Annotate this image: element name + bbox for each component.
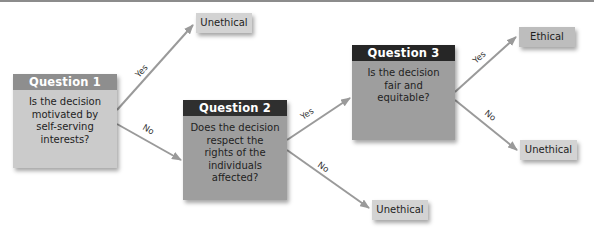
outcome-q1-yes-unethical: Unethical — [196, 13, 252, 33]
arrow-q3-yes — [455, 37, 516, 92]
arrow-q3-no — [455, 100, 517, 150]
question-1-line: Is the decision — [19, 96, 111, 109]
arrow-q2-yes — [287, 98, 350, 140]
question-2-text: Does the decision respect the rights of … — [183, 116, 287, 185]
question-2-line: rights of the — [189, 147, 281, 160]
question-1-title: Question 1 — [13, 74, 117, 90]
question-1-box: Question 1 Is the decision motivated by … — [13, 74, 117, 168]
question-3-line: Is the decision — [358, 67, 449, 80]
outcome-q3-yes-ethical: Ethical — [519, 27, 575, 47]
question-2-title: Question 2 — [183, 100, 287, 116]
question-2-line: Does the decision — [189, 122, 281, 135]
question-3-line: fair and equitable? — [358, 80, 449, 105]
question-2-box: Question 2 Does the decision respect the… — [183, 100, 287, 200]
arrow-q1-yes — [117, 25, 193, 110]
outcome-q2-no-unethical: Unethical — [372, 200, 428, 220]
question-1-text: Is the decision motivated by self-servin… — [13, 90, 117, 146]
question-2-line: individuals — [189, 160, 281, 173]
question-2-line: affected? — [189, 172, 281, 185]
question-3-box: Question 3 Is the decision fair and equi… — [352, 45, 455, 140]
label-q3-no: No — [483, 108, 498, 123]
outcome-q3-no-unethical: Unethical — [520, 140, 577, 160]
question-1-line: interests? — [19, 134, 111, 147]
question-3-text: Is the decision fair and equitable? — [352, 61, 455, 105]
question-3-title: Question 3 — [352, 45, 455, 61]
question-1-line: self-serving — [19, 121, 111, 134]
question-1-line: motivated by — [19, 109, 111, 122]
label-q1-no: No — [141, 122, 156, 136]
arrow-q2-no — [287, 150, 369, 208]
label-q2-yes: Yes — [298, 105, 316, 122]
question-2-line: respect the — [189, 135, 281, 148]
